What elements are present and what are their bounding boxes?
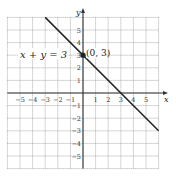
x-tick-label: −2: [53, 96, 63, 104]
x-tick-label: −5: [15, 96, 25, 104]
x-tick-label: −3: [40, 96, 50, 104]
x-tick-label: 3: [119, 96, 123, 104]
x-tick-label: 4: [131, 96, 135, 104]
y-tick-label: −3: [71, 127, 81, 135]
y-tick-label: 2: [77, 64, 81, 72]
point-label: (0, 3): [86, 48, 110, 58]
y-tick-label: −5: [71, 153, 81, 161]
axes: xy: [7, 8, 169, 169]
y-axis-arrow-icon: [81, 8, 85, 13]
y-tick-label: −4: [71, 140, 81, 148]
x-tick-label: −4: [28, 96, 38, 104]
series: [45, 17, 158, 130]
equation-label: x + y = 3: [20, 49, 67, 60]
y-tick-label: 4: [77, 39, 81, 47]
x-tick-label: 2: [106, 96, 110, 104]
annotations: (0, 3)x + y = 3: [18, 48, 110, 60]
y-tick-label: −2: [71, 115, 81, 123]
y-tick-label: 5: [77, 27, 81, 35]
line-x-plus-y-equals-3: [45, 17, 158, 130]
coordinate-plane: xy −5−4−3−2−11234554321−1−2−3−4−5 (0, 3)…: [0, 0, 176, 179]
x-axis-label: x: [164, 95, 169, 104]
y-tick-label: −1: [71, 102, 81, 110]
x-tick-label: 1: [94, 96, 98, 104]
y-axis-label: y: [75, 8, 81, 17]
point-marker: [80, 53, 85, 58]
x-tick-label: 5: [144, 96, 148, 104]
y-tick-label: 1: [77, 77, 81, 85]
